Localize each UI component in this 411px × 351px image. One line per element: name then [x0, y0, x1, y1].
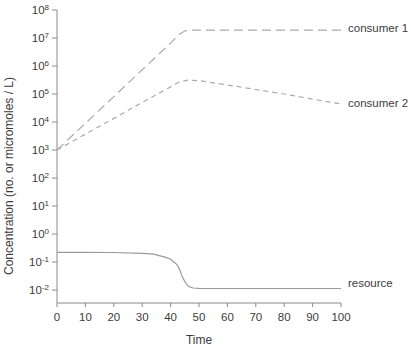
y-tick-label: 10-2 [29, 283, 49, 297]
y-tick-exponent: 3 [45, 143, 50, 152]
y-tick-exponent: -1 [42, 255, 50, 264]
y-axis-title: Concentration (no. or micromoles / L) [2, 77, 16, 275]
series-curve-consumer-1 [57, 30, 341, 150]
series-label-consumer-1: consumer 1 [348, 22, 408, 34]
series-curve-resource [57, 252, 341, 288]
y-tick-exponent: 0 [45, 227, 50, 236]
chart-figure: 0102030405060708090100108107106105104103… [0, 0, 411, 351]
y-tick-exponent: -2 [42, 283, 50, 292]
x-tick-label: 80 [278, 311, 291, 323]
y-tick-label: 103 [32, 143, 50, 157]
series-curve-consumer-2 [57, 80, 341, 150]
y-tick-label: 105 [32, 87, 50, 101]
x-tick-label: 10 [79, 311, 92, 323]
y-tick-exponent: 8 [45, 3, 50, 12]
plot-generated-content: 0102030405060708090100108107106105104103… [29, 3, 351, 324]
y-tick-exponent: 7 [45, 31, 50, 40]
plot-canvas: 0102030405060708090100108107106105104103… [0, 0, 411, 351]
x-tick-label: 90 [306, 311, 319, 323]
x-tick-label: 30 [136, 311, 149, 323]
y-tick-label: 102 [32, 171, 50, 185]
x-tick-label: 20 [107, 311, 120, 323]
y-tick-label: 10-1 [29, 255, 49, 269]
y-tick-label: 101 [32, 199, 50, 213]
y-tick-exponent: 4 [45, 115, 50, 124]
x-axis-title: Time [186, 333, 213, 347]
series-label-resource: resource [348, 277, 393, 289]
y-tick-exponent: 6 [45, 59, 50, 68]
x-tick-label: 100 [331, 311, 350, 323]
y-tick-label: 106 [32, 59, 50, 73]
series-label-consumer-2: consumer 2 [348, 97, 408, 109]
x-tick-label: 50 [193, 311, 206, 323]
y-tick-label: 104 [32, 115, 50, 129]
y-tick-label: 100 [32, 227, 50, 241]
y-tick-label: 108 [32, 3, 50, 17]
x-tick-label: 70 [249, 311, 262, 323]
y-tick-exponent: 1 [45, 199, 50, 208]
x-tick-label: 0 [54, 311, 60, 323]
x-tick-label: 40 [164, 311, 177, 323]
y-tick-label: 107 [32, 31, 50, 45]
y-tick-exponent: 5 [45, 87, 50, 96]
y-tick-exponent: 2 [45, 171, 50, 180]
x-tick-label: 60 [221, 311, 234, 323]
